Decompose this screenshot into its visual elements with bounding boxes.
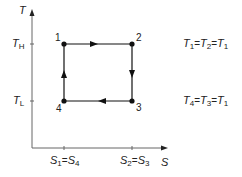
point-4 — [61, 98, 66, 103]
point-2 — [129, 41, 134, 46]
y-tick-label-th: TH — [12, 38, 25, 51]
point-label-1: 1 — [55, 33, 61, 43]
y-axis-arrow-icon — [30, 9, 35, 16]
y-axis — [30, 9, 35, 148]
y-axis-label: T — [19, 5, 26, 16]
arrow-up-icon — [61, 70, 67, 78]
arrow-right-icon — [90, 41, 98, 47]
cycle-path — [61, 41, 135, 104]
diagram-canvas — [0, 0, 242, 177]
x-axis-arrow-icon — [161, 146, 168, 151]
arrow-left-icon — [98, 98, 106, 104]
point-3 — [129, 98, 134, 103]
x-tick-label-s1-s4: S1=S4 — [50, 155, 79, 168]
x-tick-label-s2-s3: S2=S3 — [120, 155, 149, 168]
y-tick-label-tl: TL — [13, 95, 24, 108]
equation-low-temp: T4=T3=T1 — [183, 95, 228, 108]
point-label-2: 2 — [136, 33, 142, 43]
arrow-down-icon — [129, 70, 135, 78]
x-axis — [32, 146, 168, 151]
point-1 — [61, 41, 66, 46]
point-label-3: 3 — [136, 103, 142, 113]
ts-diagram: T S TH TL S1=S4 S2=S3 1 2 3 4 T1=T2=T1 T… — [0, 0, 242, 177]
equation-high-temp: T1=T2=T1 — [183, 38, 228, 51]
point-label-4: 4 — [56, 104, 62, 114]
x-axis-label: S — [161, 157, 168, 168]
